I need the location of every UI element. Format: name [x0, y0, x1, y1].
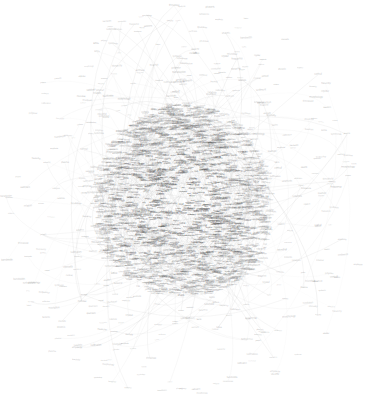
- graph-node-label: cortical: [315, 73, 323, 76]
- graph-node-label: selection: [195, 226, 201, 228]
- graph-node-label: resolution: [185, 317, 194, 319]
- graph-node-label: synthesis: [331, 133, 342, 136]
- graph-node-label: information: [161, 240, 169, 242]
- graph-node-label: topic: [255, 170, 259, 172]
- graph-node-label: method: [240, 272, 246, 274]
- graph-node-label: information: [170, 223, 180, 226]
- graph-node-label: calibration: [230, 308, 240, 311]
- graph-node-label: aquifer: [323, 332, 329, 334]
- graph-node-label: crawl: [150, 114, 154, 116]
- graph-node-label: law: [138, 226, 142, 229]
- graph-node-label: coupling: [168, 114, 175, 116]
- graph-node-label: crisis: [176, 263, 180, 265]
- graph-node-label: polymer: [284, 241, 292, 243]
- graph-node-label: food: [105, 238, 110, 241]
- graph-node-label: risk: [243, 159, 246, 161]
- graph-node-label: failure: [137, 239, 141, 241]
- graph-node-label: hierarchy: [28, 301, 34, 303]
- graph-node-label: carbon: [124, 163, 129, 165]
- graph-node-label: synthesis: [121, 105, 127, 107]
- graph-node-label: polymer: [325, 273, 333, 276]
- graph-node-label: evolution: [196, 269, 205, 272]
- graph-node-label: calibration: [246, 354, 257, 357]
- graph-node-label: power: [123, 270, 130, 273]
- graph-node-label: quantum: [101, 77, 107, 79]
- graph-node-label: plasma: [300, 286, 307, 289]
- graph-node-label: sediment: [40, 234, 46, 236]
- graph-node-label: resolution: [73, 268, 81, 270]
- graph-node-label: tectonic: [213, 301, 220, 303]
- graph-node-label: distribution: [93, 207, 100, 209]
- graph-node-label: spread: [111, 228, 116, 230]
- graph-node-label: catalysis: [52, 187, 60, 189]
- graph-node-label: markov: [139, 179, 146, 181]
- graph-node-label: photonic: [344, 133, 350, 135]
- graph-node-label: catalysis: [106, 29, 116, 32]
- graph-node-label: resolution: [302, 302, 313, 305]
- graph-node-label: paper: [226, 284, 233, 287]
- graph-node-label: topic: [235, 174, 239, 176]
- graph-node-label: photonic: [235, 51, 241, 53]
- graph-node-label: power: [124, 228, 130, 230]
- graph-node-label: training: [109, 164, 116, 167]
- graph-node-label: frequency: [330, 186, 341, 189]
- graph-node-label: oscillator: [138, 274, 146, 276]
- graph-node-label: synthesis: [241, 112, 250, 115]
- graph-node-label: turbulence: [200, 13, 210, 15]
- graph-node-label: memory: [244, 190, 252, 192]
- graph-node-label: tectonic: [141, 366, 146, 368]
- graph-node-label: privacy: [165, 231, 171, 233]
- graph-node-label: relation: [178, 310, 183, 312]
- graph-node-label: hierarchy: [130, 348, 136, 350]
- graph-node-label: link: [185, 292, 187, 294]
- graph-node-label: plasma: [88, 132, 94, 134]
- graph-node-label: catalysis: [255, 340, 261, 342]
- graph-node-label: calibration: [113, 349, 119, 351]
- graph-node-label: sediment: [144, 25, 152, 28]
- graph-node-label: plasma: [55, 337, 61, 339]
- graph-node-label: gene: [255, 243, 259, 245]
- graph-node-label: polymer: [82, 185, 91, 188]
- graph-node-label: microbial: [318, 195, 324, 197]
- graph-node-label: frequency: [137, 72, 144, 74]
- graph-node-label: aquifer: [103, 117, 110, 119]
- graph-node-label: transduction: [86, 120, 96, 122]
- graph-node-label: cell: [131, 128, 134, 130]
- graph-node-label: oscillator: [132, 143, 141, 146]
- graph-node-label: pattern: [107, 202, 113, 204]
- graph-node-label: crystal: [116, 110, 120, 112]
- graph-node-label: influence: [137, 188, 146, 191]
- graph-node-label: probability: [208, 127, 216, 129]
- graph-node-label: swarm: [100, 202, 106, 205]
- graph-node-label: crystal: [71, 137, 75, 139]
- graph-node-label: turbulence: [124, 387, 131, 389]
- graph-node-label: memory: [170, 176, 178, 179]
- graph-node-label: sediment: [42, 93, 49, 95]
- graph-node-label: trade: [215, 280, 218, 282]
- graph-node-label: resolution: [107, 301, 117, 304]
- graph-node-label: urban: [181, 212, 187, 215]
- graph-node-label: aquifer: [327, 224, 331, 226]
- graph-node-label: photonic: [222, 32, 230, 35]
- graph-node-label: amplitude: [50, 147, 58, 149]
- graph-node-label: knowledge: [114, 197, 123, 199]
- graph-node-label: threshold: [258, 274, 266, 277]
- graph-node-label: centrality: [202, 153, 212, 156]
- graph-node-label: system: [99, 170, 104, 172]
- graph-node-label: distance: [150, 179, 159, 182]
- graph-node-label: bifurcation: [215, 198, 226, 201]
- graph-node-label: neural: [199, 199, 204, 201]
- graph-node-label: manifold: [128, 277, 134, 279]
- graph-node-label: frequency: [39, 292, 50, 295]
- graph-node-label: function: [171, 245, 178, 247]
- graph-node-label: validation: [150, 241, 156, 243]
- graph-node-label: semantic: [197, 124, 206, 127]
- graph-node-label: bandwidth: [54, 136, 65, 139]
- graph-node-label: energy: [234, 192, 239, 194]
- graph-node-label: smallworld: [125, 166, 133, 168]
- graph-node-label: spatial: [201, 159, 206, 161]
- graph-node-label: lattice: [321, 129, 327, 132]
- graph-node-label: cascade: [198, 191, 206, 194]
- graph-node-label: layer: [218, 262, 222, 264]
- graph-node-label: theory: [157, 278, 161, 280]
